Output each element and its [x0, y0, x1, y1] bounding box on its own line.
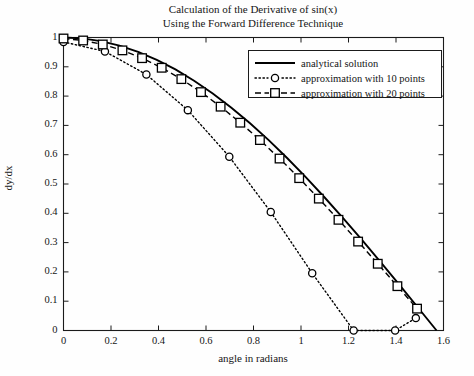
- series-marker: [236, 118, 245, 127]
- y-tick-label: 0.8: [18, 89, 58, 100]
- legend-sample-none-icon: [249, 55, 301, 71]
- series-marker: [157, 63, 166, 72]
- series-marker: [118, 46, 127, 55]
- series-marker: [138, 54, 147, 63]
- legend-entry: approximation with 20 points: [249, 85, 443, 101]
- legend-label: approximation with 10 points: [301, 73, 425, 84]
- series-marker: [143, 71, 150, 78]
- series-marker: [309, 270, 316, 277]
- series-marker: [216, 102, 225, 111]
- y-tick-label: 0.2: [18, 265, 58, 276]
- figure-canvas: Calculation of the Derivative of sin(x) …: [0, 0, 474, 376]
- x-axis-label: angle in radians: [63, 352, 443, 364]
- series-marker: [98, 40, 107, 49]
- series-marker: [79, 36, 88, 45]
- series-marker: [350, 327, 357, 334]
- series-marker: [275, 154, 284, 163]
- series-marker: [354, 237, 363, 246]
- legend: analytical solutionapproximation with 10…: [248, 50, 442, 98]
- x-tick-label: 1.4: [376, 335, 416, 346]
- y-tick-label: 0.9: [18, 60, 58, 71]
- series-marker: [412, 315, 419, 322]
- series-marker: [177, 75, 186, 84]
- y-tick-label: 0.1: [18, 294, 58, 305]
- y-tick-label: 0.7: [18, 118, 58, 129]
- series-marker: [392, 327, 399, 334]
- series-marker: [59, 34, 68, 43]
- x-tick-label: 0.4: [139, 335, 179, 346]
- x-tick-label: 0.2: [91, 335, 131, 346]
- series-marker: [393, 282, 402, 291]
- x-tick-label: 0.8: [234, 335, 274, 346]
- x-tick-label: 0.6: [186, 335, 226, 346]
- series-marker: [267, 208, 274, 215]
- x-tick-label: 1: [281, 335, 321, 346]
- legend-sample-circle-icon: [249, 70, 301, 86]
- series-marker: [373, 259, 382, 268]
- y-tick-label: 0.3: [18, 236, 58, 247]
- y-tick-label: 0.4: [18, 206, 58, 217]
- series-marker: [197, 88, 206, 97]
- y-tick-label: 0: [18, 324, 58, 335]
- legend-sample-square-icon: [249, 85, 301, 101]
- series-marker: [226, 153, 233, 160]
- y-tick-label: 0.6: [18, 148, 58, 159]
- series-marker: [184, 107, 191, 114]
- x-tick-label: 1.6: [424, 335, 464, 346]
- series-marker: [256, 136, 265, 145]
- series-marker: [413, 304, 422, 313]
- x-tick-label: 0: [44, 335, 84, 346]
- legend-label: approximation with 20 points: [301, 88, 425, 99]
- legend-entry: analytical solution: [249, 55, 443, 71]
- legend-label: analytical solution: [301, 58, 378, 69]
- y-axis-label: dy/dx: [2, 148, 14, 208]
- y-tick-label: 1: [18, 31, 58, 42]
- legend-entry: approximation with 10 points: [249, 70, 443, 86]
- series-marker: [334, 216, 343, 225]
- y-tick-label: 0.5: [18, 177, 58, 188]
- series-marker: [295, 174, 304, 183]
- x-tick-label: 1.2: [329, 335, 369, 346]
- series-marker: [315, 194, 324, 203]
